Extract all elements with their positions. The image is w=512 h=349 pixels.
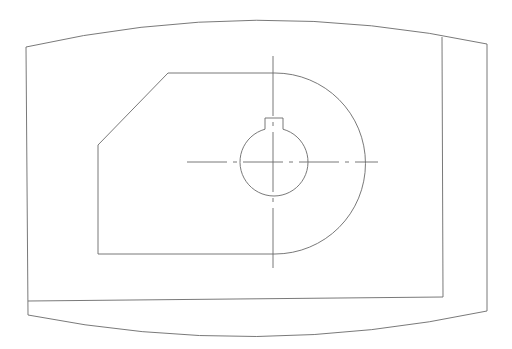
- drawing-canvas: [0, 0, 512, 349]
- inner-right-edge: [442, 37, 443, 297]
- outer-frame: [26, 20, 487, 336]
- part-outline: [98, 73, 365, 254]
- inner-bottom-edge: [28, 297, 443, 301]
- bore-with-keyway: [240, 118, 308, 196]
- cad-drawing: [0, 0, 512, 349]
